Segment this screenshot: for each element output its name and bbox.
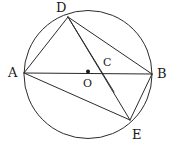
center-point-O (86, 70, 90, 74)
segment-AD (24, 17, 68, 73)
point-label-A: A (8, 66, 17, 79)
point-label-O: O (83, 78, 92, 89)
point-label-C: C (103, 57, 111, 68)
point-label-B: B (157, 67, 167, 80)
segment-BE (130, 74, 152, 120)
segment-group (24, 17, 152, 120)
point-label-D: D (56, 1, 66, 14)
segment-AE (24, 73, 130, 120)
point-label-E: E (132, 128, 142, 141)
main-circle (24, 11, 152, 139)
geometry-figure: D A B C O E (0, 0, 177, 154)
